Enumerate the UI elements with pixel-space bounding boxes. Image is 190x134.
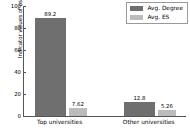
bar-top-universities-avg-degree: 89.2 bbox=[35, 18, 67, 116]
bar-other-universities-avg-es: 5.26 bbox=[158, 110, 177, 116]
bar-top-universities-avg-es: 7.62 bbox=[69, 108, 88, 116]
x-tick-top-universities: Top universities bbox=[37, 119, 82, 126]
y-tick-0: 0 bbox=[18, 113, 24, 119]
legend-item-avg-degree: Avg. Degree bbox=[130, 5, 183, 12]
bar-value-label: 7.62 bbox=[72, 101, 84, 107]
y-tick-40: 40 bbox=[14, 69, 24, 75]
bar-value-label: 12.8 bbox=[133, 95, 145, 101]
legend-label: Avg. Degree bbox=[147, 5, 183, 12]
bar-other-universities-avg-degree: 12.8 bbox=[124, 102, 156, 116]
legend-item-avg-es: Avg. ES bbox=[130, 14, 183, 21]
bar-value-label: 5.26 bbox=[161, 103, 173, 109]
bar-chart: Indicator values of users 100 80 60 40 2… bbox=[0, 0, 190, 134]
bar-value-label: 89.2 bbox=[44, 11, 56, 17]
legend: Avg. Degree Avg. ES bbox=[126, 2, 188, 24]
y-tick-60: 60 bbox=[14, 47, 24, 53]
legend-label: Avg. ES bbox=[147, 14, 169, 21]
y-tick-20: 20 bbox=[14, 91, 24, 97]
y-tick-80: 80 bbox=[14, 25, 24, 31]
y-tick-100: 100 bbox=[11, 3, 24, 9]
x-tick-other-universities: Other universities bbox=[123, 119, 175, 126]
legend-swatch-icon bbox=[130, 6, 143, 11]
legend-swatch-icon bbox=[130, 15, 143, 20]
